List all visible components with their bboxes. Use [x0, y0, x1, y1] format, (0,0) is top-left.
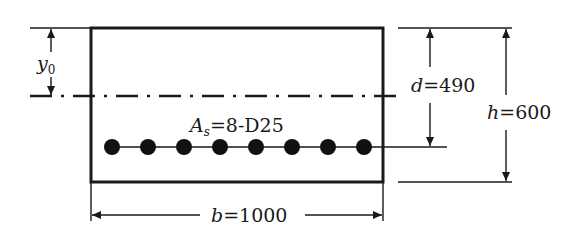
rebar-circle: [248, 139, 264, 155]
rebar-circle: [320, 139, 336, 155]
h-label: h=600: [487, 101, 551, 123]
as-label: As=8-D25: [188, 114, 284, 139]
beam-section-rectangle: [91, 28, 383, 182]
b-label: b=1000: [211, 204, 287, 226]
y0-label: y0: [36, 52, 55, 77]
rebar-circle: [104, 139, 120, 155]
beam-section-diagram: y0 As=8-D25 d=490 h=600 b=1000: [0, 0, 576, 250]
rebar-circle: [284, 139, 300, 155]
rebar-circle: [212, 139, 228, 155]
rebar-circle: [176, 139, 192, 155]
d-label: d=490: [411, 74, 475, 96]
rebar-circle: [356, 139, 372, 155]
rebar-circle: [140, 139, 156, 155]
